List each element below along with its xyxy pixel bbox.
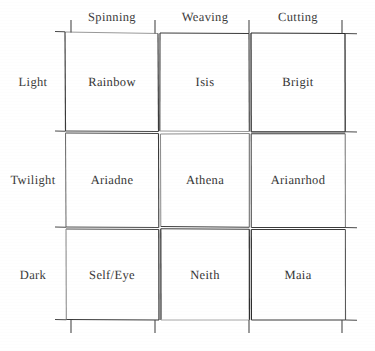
row-header-twilight: Twilight (11, 173, 56, 188)
column-header-spinning: Spinning (88, 10, 136, 25)
column-header-weaving: Weaving (182, 10, 229, 25)
matrix-diagram: Spinning Weaving Cutting Light Twilight … (0, 0, 375, 351)
tick-marks-bottom (55, 320, 357, 334)
cell-r3c1-self-eye: Self/Eye (89, 268, 135, 283)
cell-r1c1-rainbow: Rainbow (88, 75, 136, 90)
cell-r2c2-athena: Athena (186, 173, 224, 188)
column-header-cutting: Cutting (278, 10, 318, 25)
row-header-light: Light (19, 75, 48, 90)
cell-r2c3-arianrhod: Arianrhod (271, 173, 326, 188)
cell-r3c2-neith: Neith (190, 268, 220, 283)
cell-r1c2-isis: Isis (196, 75, 215, 90)
cell-r1c3-brigit: Brigit (282, 75, 313, 90)
cell-r2c1-ariadne: Ariadne (91, 173, 134, 188)
cell-r3c3-maia: Maia (284, 268, 311, 283)
row-header-dark: Dark (20, 268, 46, 283)
